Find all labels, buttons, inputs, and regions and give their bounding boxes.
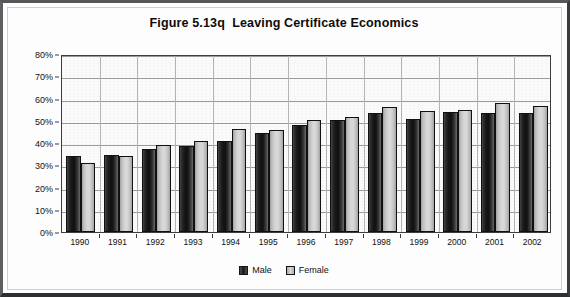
x-tick-label-1990: 1990 bbox=[70, 237, 89, 247]
y-tick-mark bbox=[55, 55, 59, 56]
x-tick-mark bbox=[325, 234, 326, 238]
bar-female-1999 bbox=[420, 111, 435, 232]
bar-female-1998 bbox=[382, 107, 397, 232]
y-tick-label-80: 80% bbox=[35, 50, 53, 60]
bar-female-1995 bbox=[269, 130, 284, 232]
bar-group-2001 bbox=[477, 56, 515, 232]
legend-item-female[interactable]: Female bbox=[286, 265, 329, 275]
bar-group-2000 bbox=[439, 56, 477, 232]
y-tick-mark bbox=[55, 233, 59, 234]
y-tick-label-50: 50% bbox=[35, 117, 53, 127]
x-tick-mark bbox=[99, 234, 100, 238]
y-tick-mark bbox=[55, 121, 59, 122]
x-tick-mark bbox=[212, 234, 213, 238]
y-tick-label-30: 30% bbox=[35, 161, 53, 171]
bar-female-1990 bbox=[81, 163, 96, 232]
y-tick-label-0: 0% bbox=[40, 228, 53, 238]
bar-female-1997 bbox=[345, 117, 360, 232]
y-tick-mark bbox=[55, 99, 59, 100]
x-tick-label-1995: 1995 bbox=[259, 237, 278, 247]
x-axis: 1990199119921993199419951996199719981999… bbox=[61, 234, 551, 252]
y-tick-mark bbox=[55, 77, 59, 78]
bar-group-2002 bbox=[514, 56, 551, 232]
bars-layer bbox=[62, 56, 550, 232]
x-tick-label-2002: 2002 bbox=[523, 237, 542, 247]
chart-legend: MaleFemale bbox=[3, 265, 565, 275]
y-tick-label-60: 60% bbox=[35, 95, 53, 105]
bar-group-1996 bbox=[288, 56, 326, 232]
bar-male-1992 bbox=[142, 149, 157, 232]
bar-male-1996 bbox=[292, 125, 307, 232]
bar-group-1993 bbox=[175, 56, 213, 232]
bar-group-1991 bbox=[100, 56, 138, 232]
bar-male-1993 bbox=[179, 146, 194, 232]
legend-label: Female bbox=[299, 265, 329, 275]
y-tick-mark bbox=[55, 166, 59, 167]
x-tick-label-1998: 1998 bbox=[372, 237, 391, 247]
page-title: Figure 5.13q Leaving Certificate Economi… bbox=[3, 16, 565, 30]
bar-female-2000 bbox=[458, 110, 473, 232]
plot-area bbox=[61, 55, 551, 233]
bar-male-1999 bbox=[406, 119, 421, 232]
bar-male-2000 bbox=[443, 112, 458, 232]
bar-group-1997 bbox=[326, 56, 364, 232]
bar-female-1994 bbox=[232, 129, 247, 232]
x-tick-mark bbox=[287, 234, 288, 238]
legend-item-male[interactable]: Male bbox=[239, 265, 272, 275]
bar-male-1995 bbox=[255, 133, 270, 232]
x-tick-label-1991: 1991 bbox=[108, 237, 127, 247]
bar-male-2002 bbox=[519, 113, 534, 232]
x-tick-label-2000: 2000 bbox=[447, 237, 466, 247]
bar-male-2001 bbox=[481, 113, 496, 232]
x-tick-mark bbox=[513, 234, 514, 238]
x-tick-mark bbox=[400, 234, 401, 238]
bar-male-1991 bbox=[104, 155, 119, 232]
y-tick-label-40: 40% bbox=[35, 139, 53, 149]
x-tick-mark bbox=[476, 234, 477, 238]
x-tick-mark bbox=[136, 234, 137, 238]
x-tick-label-1992: 1992 bbox=[146, 237, 165, 247]
bar-female-1991 bbox=[119, 156, 134, 232]
x-tick-label-1997: 1997 bbox=[334, 237, 353, 247]
x-tick-label-1996: 1996 bbox=[297, 237, 316, 247]
bar-female-1992 bbox=[156, 145, 171, 232]
bar-group-1999 bbox=[401, 56, 439, 232]
bar-male-1990 bbox=[66, 156, 81, 232]
x-tick-mark bbox=[174, 234, 175, 238]
y-tick-mark bbox=[55, 210, 59, 211]
y-tick-mark bbox=[55, 144, 59, 145]
bar-male-1997 bbox=[330, 120, 345, 232]
legend-label: Male bbox=[252, 265, 272, 275]
y-tick-label-20: 20% bbox=[35, 184, 53, 194]
bar-female-1993 bbox=[194, 141, 209, 232]
x-tick-mark bbox=[363, 234, 364, 238]
bar-group-1994 bbox=[213, 56, 251, 232]
legend-swatch-female-icon bbox=[286, 266, 295, 275]
bar-male-1994 bbox=[217, 141, 232, 232]
bar-group-1992 bbox=[137, 56, 175, 232]
y-tick-mark bbox=[55, 188, 59, 189]
bar-female-2001 bbox=[495, 103, 510, 232]
x-tick-label-1994: 1994 bbox=[221, 237, 240, 247]
bar-female-1996 bbox=[307, 120, 322, 232]
x-tick-mark bbox=[438, 234, 439, 238]
x-tick-label-1999: 1999 bbox=[410, 237, 429, 247]
bar-group-1990 bbox=[62, 56, 100, 232]
x-tick-label-2001: 2001 bbox=[485, 237, 504, 247]
bar-female-2002 bbox=[533, 106, 548, 232]
figure-frame: Figure 5.13q Leaving Certificate Economi… bbox=[0, 0, 570, 297]
legend-swatch-male-icon bbox=[239, 266, 248, 275]
x-tick-mark bbox=[249, 234, 250, 238]
y-tick-label-70: 70% bbox=[35, 72, 53, 82]
bar-male-1998 bbox=[368, 113, 383, 232]
y-axis: 0%10%20%30%40%50%60%70%80% bbox=[3, 55, 59, 233]
bar-group-1995 bbox=[250, 56, 288, 232]
bar-group-1998 bbox=[364, 56, 402, 232]
y-tick-label-10: 10% bbox=[35, 206, 53, 216]
x-tick-label-1993: 1993 bbox=[183, 237, 202, 247]
